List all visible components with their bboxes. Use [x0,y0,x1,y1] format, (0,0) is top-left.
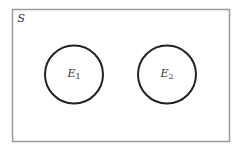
venn-diagram: S E1 E2 [0,0,240,149]
event-e1-label-main: E [66,67,75,80]
event-e2-label-subscript: 2 [168,72,173,81]
event-e2-label-main: E [159,67,168,80]
event-e1: E1 [45,46,103,104]
event-e1-label-subscript: 1 [75,72,80,81]
sample-space-label: S [18,12,26,25]
event-e2: E2 [138,46,196,104]
event-e1-label: E1 [66,67,80,81]
event-e2-label: E2 [159,67,173,81]
